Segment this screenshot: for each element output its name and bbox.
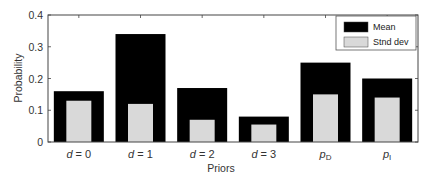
- legend-label-mean: Mean: [373, 22, 396, 32]
- x-tick-label: pI: [382, 148, 391, 162]
- bar-stnd-dev: [375, 98, 400, 142]
- x-tick-label: pD: [319, 148, 332, 162]
- x-tick-label: d = 3: [251, 148, 276, 160]
- bar-stnd-dev: [313, 94, 338, 142]
- bar-stnd-dev: [66, 101, 91, 142]
- legend-swatch-mean: [344, 22, 368, 32]
- y-tick-label: 0: [37, 136, 43, 148]
- bar-stnd-dev: [128, 104, 153, 142]
- bar-stnd-dev: [190, 120, 215, 142]
- bar-stnd-dev: [251, 125, 276, 142]
- y-tick-label: 0.2: [28, 73, 43, 85]
- legend: Mean Stnd dev: [336, 16, 416, 50]
- x-axis-title: Priors: [207, 162, 234, 174]
- legend-label-stnd-dev: Stnd dev: [373, 37, 409, 47]
- y-tick-label: 0.1: [28, 104, 43, 116]
- y-tick-label: 0.4: [28, 9, 43, 21]
- bar-chart: 00.10.20.30.4 d = 0d = 1d = 2d = 3pDpI P…: [0, 0, 431, 184]
- y-tick-label: 0.3: [28, 41, 43, 53]
- x-tick-label: d = 0: [66, 148, 91, 160]
- x-tick-label: d = 2: [190, 148, 215, 160]
- legend-swatch-stnd-dev: [344, 37, 368, 47]
- x-tick-label: d = 1: [128, 148, 153, 160]
- y-axis-title: Probability: [12, 53, 24, 103]
